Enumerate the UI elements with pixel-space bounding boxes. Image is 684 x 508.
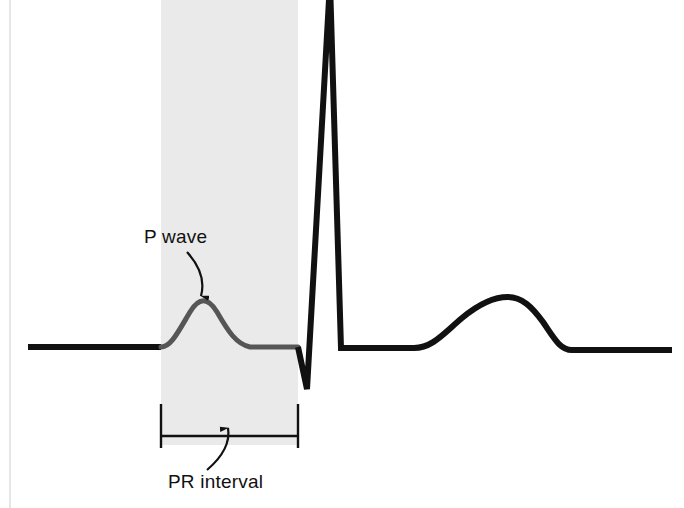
ecg-figure: P wave PR interval [0, 0, 684, 508]
ecg-diagram-canvas: P wave PR interval [0, 0, 684, 508]
p-wave-label: P wave [144, 226, 207, 247]
ecg-qrs-complex-segment [298, 0, 414, 389]
ecg-t-wave-segment [414, 297, 672, 350]
pr-interval-shaded-band [161, 0, 298, 445]
pr-interval-label: PR interval [168, 471, 263, 492]
